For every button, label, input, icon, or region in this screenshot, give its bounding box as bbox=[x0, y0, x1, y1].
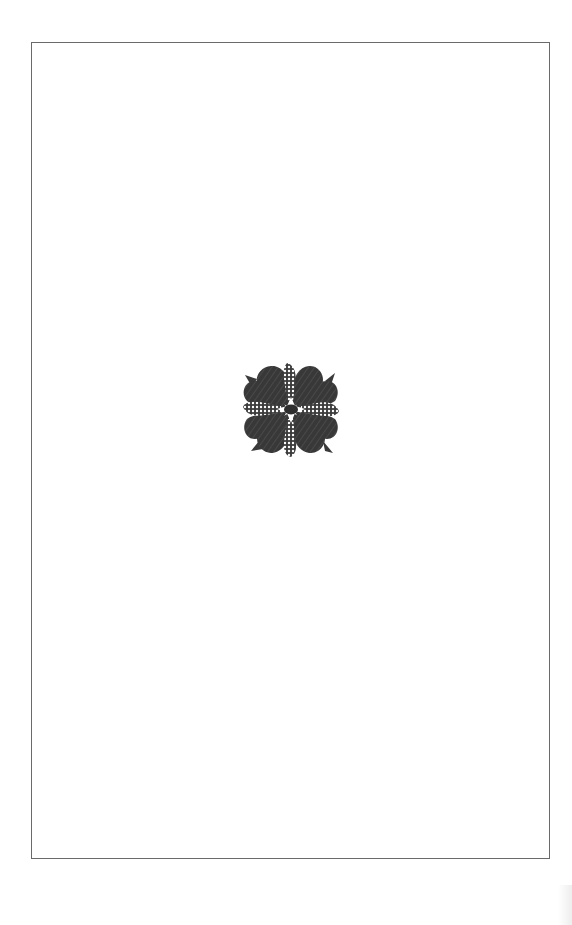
scan-edge-shadow bbox=[558, 885, 572, 925]
floral-ornament-icon bbox=[239, 361, 343, 459]
